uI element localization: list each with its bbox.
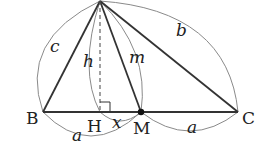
right-angle-marker <box>100 102 110 112</box>
midpoint-dot <box>138 109 144 115</box>
point-label-B: B <box>26 108 39 128</box>
label-a-right: a <box>187 117 197 137</box>
label-h: h <box>83 51 94 71</box>
point-label-H: H <box>87 116 102 136</box>
label-x: x <box>112 112 122 132</box>
point-label-M: M <box>133 118 150 138</box>
label-c: c <box>50 36 60 56</box>
label-b: b <box>176 20 187 40</box>
label-a-left: a <box>72 125 82 145</box>
label-m: m <box>129 47 145 67</box>
triangle-diagram: B C H M c b h m x a a <box>0 0 279 158</box>
point-label-C: C <box>242 108 255 128</box>
